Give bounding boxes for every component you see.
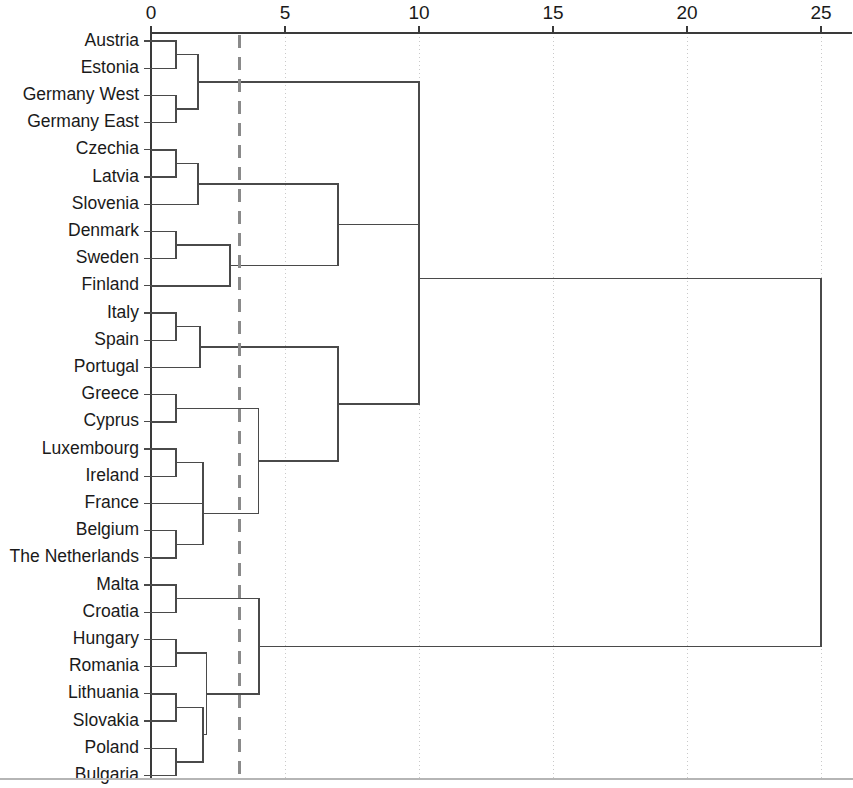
leaf-label: Slovenia [72,193,139,213]
leaf-label: Poland [85,737,140,757]
axis-tick-label: 5 [280,2,291,23]
dendrogram-link [151,245,230,286]
dendrogram-link [176,707,203,761]
dendrogram-link [151,150,176,177]
leaf-label: Slovakia [73,710,139,730]
leaf-label: Ireland [85,465,139,485]
leaf-label: Germany East [27,111,139,131]
axis-tick-labels: 0510152025 [146,2,832,23]
leaf-label: Estonia [81,57,140,77]
axis-tick-label: 0 [146,2,157,23]
dendrogram-link [151,531,176,558]
dendrogram-link [200,347,338,461]
leaf-label: Latvia [92,166,139,186]
leaf-label: Romania [69,655,139,675]
leaf-label: Denmark [68,220,139,240]
dendrogram-link [151,694,176,721]
axis-tick-label: 20 [676,2,697,23]
dendrogram-link [151,748,176,775]
leaf-label: Lithuania [68,682,139,702]
leaf-ticks [144,41,151,775]
dendrogram-link [151,231,176,258]
axis-tick-label: 10 [408,2,429,23]
dendrogram-link [338,153,419,404]
dendrogram-link [198,82,419,225]
dendrogram-link [151,585,176,612]
leaf-label: Bulgaria [75,764,139,784]
dendrogram-link [176,483,203,544]
dendrogram-link [151,95,176,122]
leaf-label: Sweden [76,247,139,267]
dendrogram-link [151,395,176,422]
leaf-label: Cyprus [84,410,140,430]
dendrogram-link [151,639,176,666]
gridlines [285,33,821,779]
leaf-label: Croatia [83,601,140,621]
dendrogram-link [176,653,207,735]
dendrogram-link [259,279,821,647]
leaf-label: France [85,492,139,512]
top-axis [151,26,852,779]
leaf-label: Belgium [76,519,139,539]
dendrogram-link [176,55,198,109]
dendrogram-links [151,41,821,775]
dendrogram-link [151,313,176,340]
leaf-label: Finland [82,274,139,294]
dendrogram-link [151,163,198,204]
leaf-label: Italy [107,302,139,322]
leaf-label: Hungary [73,628,139,648]
leaf-label: Greece [82,383,139,403]
dendrogram-link [198,184,338,266]
leaf-label: Portugal [74,356,139,376]
axis-tick-label: 15 [542,2,563,23]
axis-tick-label: 25 [810,2,831,23]
leaf-label: Czechia [76,138,139,158]
dendrogram-link [176,408,258,513]
dendrogram-canvas: 0510152025 AustriaEstoniaGermany WestGer… [0,0,853,788]
leaf-label: Austria [85,30,140,50]
leaf-labels: AustriaEstoniaGermany WestGermany EastCz… [10,30,140,784]
leaf-label: The Netherlands [10,546,140,566]
dendrogram-link [151,41,176,68]
dendrogram-figure: 0510152025 AustriaEstoniaGermany WestGer… [0,0,853,788]
leaf-label: Luxembourg [42,438,139,458]
dendrogram-link [176,599,259,694]
leaf-label: Spain [94,329,139,349]
dendrogram-link [151,449,176,476]
leaf-label: Germany West [23,84,140,104]
dendrogram-link [151,463,203,504]
leaf-label: Malta [96,574,139,594]
